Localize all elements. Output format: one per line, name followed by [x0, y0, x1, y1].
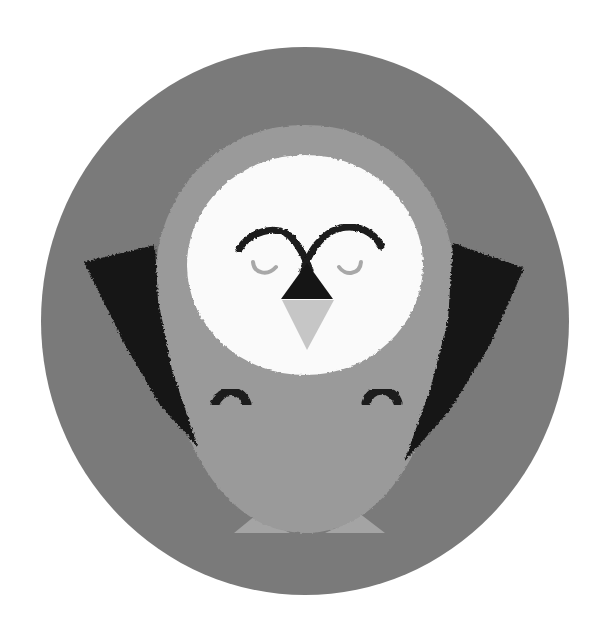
owl-illustration: [0, 0, 615, 639]
